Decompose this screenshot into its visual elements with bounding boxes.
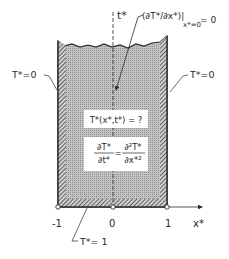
unknown-solution-box: T*(x*,t*) = ? (84, 110, 148, 128)
left-leader-line (44, 75, 57, 90)
left-boundary-layer (58, 41, 66, 207)
right-boundary-layer (160, 36, 167, 207)
right-boundary-label: T*=0 (189, 69, 215, 80)
equation-lhs-numerator: ∂T* (97, 142, 111, 152)
tick-marker-right (165, 205, 169, 209)
symmetry-condition-subscript: x*=0 (183, 21, 201, 29)
x-axis-label: x* (193, 218, 204, 229)
tick-marker-center (111, 205, 115, 209)
symmetry-condition-value: = 0 (200, 15, 216, 25)
tick-label-minus-one: -1 (52, 218, 62, 229)
equation-equals: = (114, 148, 121, 158)
equation-rhs-denominator: ∂x*² (124, 155, 141, 165)
unknown-solution-text: T*(x*,t*) = ? (89, 115, 143, 125)
right-leader-line (170, 75, 188, 92)
heat-equation-box: ∂T* ∂t* = ∂²T* ∂x*² (84, 137, 148, 171)
symmetry-condition-label: (∂T*/∂x*)| (142, 11, 184, 21)
tick-marker-left (56, 205, 60, 209)
bottom-boundary-label: T*= 1 (79, 236, 108, 247)
equation-lhs-denominator: ∂t* (98, 155, 110, 165)
tick-label-one: 1 (165, 218, 171, 229)
time-axis-label: t* (117, 9, 127, 22)
tick-label-zero: 0 (109, 218, 115, 229)
left-boundary-label: T*=0 (11, 69, 37, 80)
heat-conduction-diagram: t* -1 0 1 x* (∂T*/∂x*)| x*=0 = 0 T*=0 T*… (0, 0, 229, 259)
equation-rhs-numerator: ∂²T* (124, 142, 141, 152)
